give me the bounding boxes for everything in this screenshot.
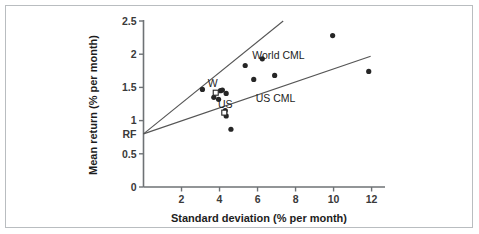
y-tick-label: 0.5 bbox=[122, 148, 137, 160]
benchmark-label-us: US bbox=[218, 98, 233, 110]
x-tick-label: 12 bbox=[366, 193, 378, 205]
y-tick-label: 2 bbox=[131, 48, 137, 60]
benchmark-marker-w bbox=[213, 90, 218, 95]
x-axis-title: Standard deviation (% per month) bbox=[171, 212, 347, 224]
x-tick-label: 2 bbox=[179, 193, 185, 205]
y-axis-title: Mean return (% per month) bbox=[87, 35, 99, 175]
data-point bbox=[224, 91, 229, 96]
data-points bbox=[200, 33, 372, 132]
chart-annotations: RF bbox=[123, 128, 138, 140]
cml-label-world-cml: World CML bbox=[252, 49, 304, 61]
data-point bbox=[366, 69, 371, 74]
risk-free-rate: RF bbox=[123, 128, 138, 140]
x-tick-label: 6 bbox=[255, 193, 261, 205]
y-tick-label: 1 bbox=[131, 114, 137, 126]
data-point bbox=[251, 77, 256, 82]
x-tick-label: 10 bbox=[328, 193, 340, 205]
x-axis-ticks: 24681012 bbox=[179, 187, 378, 205]
benchmark-marker-us bbox=[222, 110, 227, 115]
y-tick-label: 2.5 bbox=[122, 15, 137, 27]
line-labels: World CMLUS CML bbox=[252, 49, 304, 104]
cml-label-us-cml: US CML bbox=[256, 92, 296, 104]
figure-container: 00.511.522.5 24681012 WUS World CMLUS CM… bbox=[0, 0, 479, 234]
y-axis-ticks: 00.511.522.5 bbox=[122, 15, 144, 193]
data-point bbox=[228, 127, 233, 132]
data-point bbox=[243, 63, 248, 68]
y-tick-label: 0 bbox=[131, 181, 137, 193]
x-tick-label: 4 bbox=[217, 193, 223, 205]
y-tick-label: 1.5 bbox=[122, 81, 137, 93]
data-point bbox=[200, 87, 205, 92]
cml-lines bbox=[144, 21, 371, 134]
scatter-chart: 00.511.522.5 24681012 WUS World CMLUS CM… bbox=[0, 0, 479, 234]
data-point bbox=[330, 33, 335, 38]
benchmark-markers: WUS bbox=[208, 77, 233, 115]
benchmark-label-w: W bbox=[208, 77, 218, 89]
data-point bbox=[272, 73, 277, 78]
x-tick-label: 8 bbox=[293, 193, 299, 205]
